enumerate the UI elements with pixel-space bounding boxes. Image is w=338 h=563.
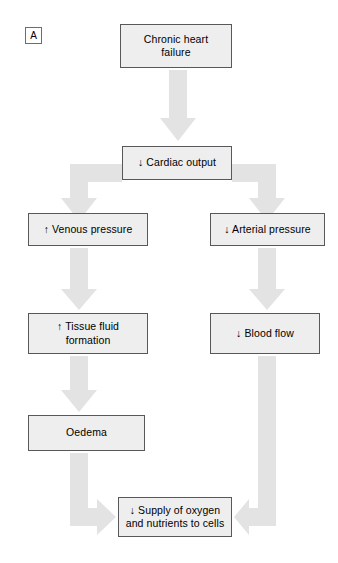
node-label: ↑ Venous pressure — [41, 223, 136, 237]
node-label: ↓ Blood flow — [233, 327, 297, 341]
node-tissue-fluid-formation: ↑ Tissue fluid formation — [28, 313, 148, 354]
node-supply-of-oxygen: ↓ Supply of oxygen and nutrients to cell… — [118, 497, 232, 537]
panel-label-text: A — [30, 30, 37, 41]
panel-label-a: A — [25, 27, 42, 44]
node-blood-flow: ↓ Blood flow — [210, 313, 320, 354]
arrow-venous-pressure-to-tissue-fluid — [61, 248, 97, 310]
node-label: ↓ Arterial pressure — [221, 223, 314, 237]
arrow-blood-flow-to-supply — [234, 356, 276, 535]
flowchart-figure: A Chronic heart failure ↓ Cardiac output… — [0, 0, 338, 563]
arrow-layer — [0, 0, 338, 563]
node-venous-pressure: ↑ Venous pressure — [28, 213, 148, 246]
arrow-chf-to-cardiac-output — [160, 70, 196, 141]
arrow-oedema-to-supply — [70, 453, 116, 535]
node-oedema: Oedema — [28, 415, 145, 451]
node-chronic-heart-failure: Chronic heart failure — [120, 24, 232, 68]
node-arterial-pressure: ↓ Arterial pressure — [210, 213, 325, 246]
node-label: Chronic heart failure — [141, 33, 211, 60]
arrow-arterial-pressure-to-blood-flow — [249, 248, 285, 310]
node-label: ↓ Supply of oxygen and nutrients to cell… — [123, 504, 228, 531]
arrow-tissue-fluid-to-oedema — [61, 356, 97, 412]
node-label: Oedema — [63, 426, 110, 440]
node-label: ↓ Cardiac output — [135, 156, 219, 170]
node-cardiac-output: ↓ Cardiac output — [122, 146, 232, 180]
node-label: ↑ Tissue fluid formation — [54, 320, 122, 347]
